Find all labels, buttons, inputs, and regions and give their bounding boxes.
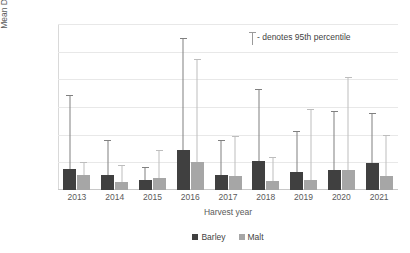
- bar-slot-malt-2019: [304, 24, 317, 190]
- percentile-annotation: - denotes 95th percentile: [248, 31, 351, 45]
- bar-group-2020: [322, 24, 360, 190]
- plot-area: 050100150200250300: [58, 24, 398, 190]
- bar-slot-barley-2021: [366, 24, 379, 190]
- error-bar-malt-2019: [310, 109, 311, 190]
- bar-malt-2014[interactable]: [115, 182, 128, 190]
- error-bar-symbol-icon: [248, 31, 256, 45]
- x-axis-tick-label-2017: 2017: [209, 192, 247, 206]
- bar-group-2021: [360, 24, 398, 190]
- chart-legend: BarleyMalt: [58, 232, 398, 242]
- don-bar-chart: Mean DON (µg/kg) 050100150200250300 2013…: [0, 0, 410, 253]
- bar-barley-2019[interactable]: [290, 172, 303, 190]
- bar-malt-2019[interactable]: [304, 180, 317, 191]
- bar-slot-barley-2017: [215, 24, 228, 190]
- bar-barley-2020[interactable]: [328, 170, 341, 190]
- percentile-annotation-label: - denotes 95th percentile: [257, 31, 351, 42]
- x-axis-tick-label-2015: 2015: [134, 192, 172, 206]
- bar-barley-2021[interactable]: [366, 163, 379, 190]
- x-axis-tick-label-2016: 2016: [171, 192, 209, 206]
- bar-series-layer: [58, 24, 398, 190]
- bar-slot-malt-2013: [77, 24, 90, 190]
- bar-malt-2015[interactable]: [153, 178, 166, 190]
- bar-group-2013: [58, 24, 96, 190]
- bar-malt-2017[interactable]: [229, 176, 242, 190]
- legend-swatch-barley-icon: [192, 234, 198, 240]
- x-axis-title: Harvest year: [58, 207, 398, 217]
- bar-malt-2021[interactable]: [380, 176, 393, 190]
- legend-label: Barley: [201, 232, 225, 242]
- bar-slot-malt-2020: [342, 24, 355, 190]
- bar-slot-malt-2021: [380, 24, 393, 190]
- bar-barley-2016[interactable]: [177, 150, 190, 190]
- legend-item-barley[interactable]: Barley: [192, 232, 225, 242]
- x-axis-tick-label-2020: 2020: [322, 192, 360, 206]
- bar-slot-barley-2020: [328, 24, 341, 190]
- bar-group-2018: [247, 24, 285, 190]
- bar-slot-malt-2014: [115, 24, 128, 190]
- legend-item-malt[interactable]: Malt: [239, 232, 264, 242]
- bar-barley-2013[interactable]: [63, 169, 76, 190]
- legend-swatch-malt-icon: [239, 234, 245, 240]
- bar-barley-2017[interactable]: [215, 175, 228, 190]
- x-axis-ticks: 201320142015201620172018201920202021: [58, 192, 398, 206]
- x-axis-tick-label-2014: 2014: [96, 192, 134, 206]
- bar-barley-2014[interactable]: [101, 175, 114, 190]
- legend-label: Malt: [248, 232, 264, 242]
- bar-slot-malt-2015: [153, 24, 166, 190]
- y-axis-title: Mean DON (µg/kg): [0, 0, 9, 48]
- x-axis-tick-label-2018: 2018: [247, 192, 285, 206]
- bar-malt-2020[interactable]: [342, 170, 355, 190]
- bar-slot-barley-2015: [139, 24, 152, 190]
- bar-group-2019: [285, 24, 323, 190]
- bar-slot-malt-2018: [266, 24, 279, 190]
- bar-barley-2018[interactable]: [252, 161, 265, 190]
- bar-group-2016: [171, 24, 209, 190]
- bar-malt-2016[interactable]: [191, 162, 204, 190]
- x-axis-tick-label-2013: 2013: [58, 192, 96, 206]
- bar-slot-malt-2016: [191, 24, 204, 190]
- bar-slot-barley-2018: [252, 24, 265, 190]
- x-axis-tick-label-2019: 2019: [285, 192, 323, 206]
- bar-slot-barley-2014: [101, 24, 114, 190]
- bar-slot-barley-2013: [63, 24, 76, 190]
- bar-malt-2018[interactable]: [266, 181, 279, 190]
- bar-slot-barley-2016: [177, 24, 190, 190]
- x-axis-tick-label-2021: 2021: [360, 192, 398, 206]
- bar-group-2015: [134, 24, 172, 190]
- bar-slot-barley-2019: [290, 24, 303, 190]
- bar-group-2014: [96, 24, 134, 190]
- bar-slot-malt-2017: [229, 24, 242, 190]
- bar-malt-2013[interactable]: [77, 175, 90, 190]
- bar-group-2017: [209, 24, 247, 190]
- bar-barley-2015[interactable]: [139, 180, 152, 191]
